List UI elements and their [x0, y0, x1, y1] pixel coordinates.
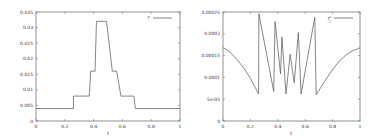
x-tick-label: 1 [179, 124, 182, 129]
left-legend: r [148, 14, 172, 20]
y-tick-label: 0.00025 [201, 10, 220, 15]
x-tick-label: 0.4 [274, 124, 281, 129]
y-tick-label: 0 [30, 119, 33, 124]
y-tick-label: 0.0002 [204, 31, 220, 36]
y-tick-label: 0.005 [20, 103, 33, 108]
y-tick-label: 0.02 [23, 56, 33, 61]
right-x-axis: 00.20.40.60.81 [222, 12, 362, 129]
y-tick-label: 0 [217, 119, 220, 124]
y-tick-label: 0.015 [20, 72, 33, 77]
right-x-axis-title: t [290, 130, 293, 136]
right-legend-subscript: j [329, 19, 332, 23]
x-tick-label: 0 [35, 124, 38, 129]
x-tick-label: 0.8 [148, 124, 155, 129]
left-plot-frame [36, 12, 180, 121]
y-tick-label: 5e-05 [207, 97, 220, 102]
left-x-axis-title: t [107, 130, 110, 136]
left-chart-panel: 00.0050.010.0150.020.0250.030.035 00.20.… [0, 0, 189, 139]
right-legend-label: rja [327, 15, 331, 23]
left-series-line [36, 21, 180, 108]
right-legend-superscript: a [329, 15, 331, 19]
left-chart: 00.0050.010.0150.020.0250.030.035 00.20.… [0, 0, 189, 139]
right-legend: rja [327, 15, 353, 23]
x-tick-label: 1 [359, 124, 362, 129]
y-tick-label: 0.00015 [201, 53, 220, 58]
x-tick-label: 0.2 [247, 124, 254, 129]
left-y-axis: 00.0050.010.0150.020.0250.030.035 [20, 10, 180, 124]
right-series-line [223, 14, 360, 95]
y-tick-label: 0.025 [20, 41, 33, 46]
right-chart-panel: 05e-050.00010.000150.00020.00025 00.20.4… [189, 0, 378, 139]
y-tick-label: 0.0001 [204, 75, 220, 80]
right-chart: 05e-050.00010.000150.00020.00025 00.20.4… [189, 0, 378, 139]
x-tick-label: 0.6 [302, 124, 309, 129]
x-tick-label: 0.2 [61, 124, 68, 129]
y-tick-label: 0.03 [23, 25, 33, 30]
left-legend-label: r [148, 14, 151, 20]
y-tick-label: 0.035 [20, 10, 33, 15]
x-tick-label: 0.4 [90, 124, 97, 129]
x-tick-label: 0.8 [329, 124, 336, 129]
x-tick-label: 0.6 [119, 124, 126, 129]
x-tick-label: 0 [222, 124, 225, 129]
left-x-axis: 00.20.40.60.81 [35, 12, 182, 129]
y-tick-label: 0.01 [23, 87, 33, 92]
